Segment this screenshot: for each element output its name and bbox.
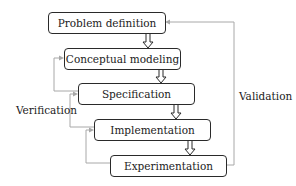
node-label: Implementation [110, 124, 194, 136]
node-label: Conceptual modeling [66, 53, 179, 65]
hollow-down-arrow-icon [171, 104, 181, 119]
validation-label: Validation [239, 90, 292, 102]
node-conceptual-modeling: Conceptual modeling [64, 48, 181, 70]
hollow-down-arrow-icon [185, 140, 195, 155]
node-label: Problem definition [58, 17, 157, 29]
hollow-down-arrow-icon [156, 69, 166, 83]
node-label: Experimentation [124, 160, 213, 172]
node-problem-definition: Problem definition [48, 12, 166, 34]
hollow-down-arrow-icon [143, 33, 153, 48]
node-implementation: Implementation [94, 119, 211, 141]
node-specification: Specification [78, 83, 195, 105]
verification-label: Verification [16, 104, 77, 116]
node-experimentation: Experimentation [110, 155, 227, 177]
node-label: Specification [102, 88, 171, 100]
